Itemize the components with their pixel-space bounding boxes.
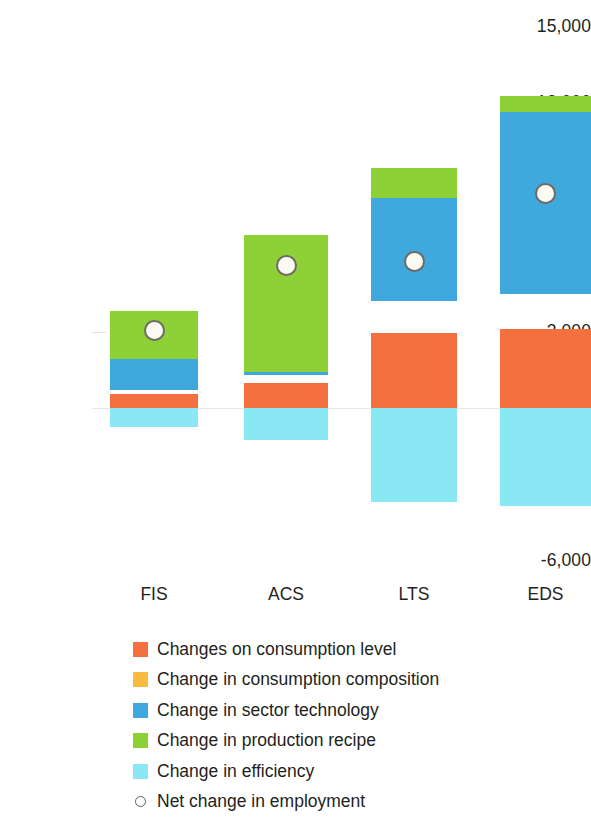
chart-legend: Changes on consumption levelChange in co… bbox=[133, 634, 583, 817]
legend-label: Change in consumption composition bbox=[157, 671, 439, 689]
bar-segment bbox=[500, 294, 591, 330]
bar-segment bbox=[110, 390, 198, 394]
bar-segment bbox=[244, 375, 328, 382]
net-change-marker bbox=[535, 183, 556, 204]
bar-segment bbox=[244, 383, 328, 408]
legend-item[interactable]: Changes on consumption level bbox=[133, 634, 583, 665]
x-axis-label-lts: LTS bbox=[371, 586, 457, 604]
bar-segment bbox=[110, 394, 198, 408]
bar-segment bbox=[244, 372, 328, 375]
legend-label: Changes on consumption level bbox=[157, 641, 396, 659]
legend-item[interactable]: Change in production recipe bbox=[133, 726, 583, 757]
bar-segment bbox=[371, 333, 457, 408]
bar-segment bbox=[371, 408, 457, 502]
bar-segment bbox=[110, 408, 198, 427]
bar-segment bbox=[371, 198, 457, 301]
legend-color-swatch bbox=[133, 703, 148, 718]
y-axis-tick-mark bbox=[92, 332, 106, 333]
open-circle-icon bbox=[133, 794, 148, 809]
legend-item[interactable]: Change in efficiency bbox=[133, 756, 583, 787]
legend-color-swatch bbox=[133, 642, 148, 657]
chart-root: 15,00012,0009,0006,0003,0000-3,000-6,000… bbox=[0, 0, 591, 832]
bar-eds[interactable] bbox=[500, 0, 591, 575]
legend-label: Change in sector technology bbox=[157, 702, 379, 720]
legend-item[interactable]: Change in sector technology bbox=[133, 695, 583, 726]
x-axis-label-acs: ACS bbox=[244, 586, 328, 604]
legend-color-swatch bbox=[133, 672, 148, 687]
bar-segment bbox=[244, 408, 328, 440]
legend-label: Change in production recipe bbox=[157, 732, 376, 750]
legend-color-swatch bbox=[133, 764, 148, 779]
bar-segment bbox=[500, 329, 591, 408]
x-axis-labels: FISACSLTSEDS bbox=[0, 586, 591, 616]
x-axis-label-eds: EDS bbox=[500, 586, 591, 604]
plot-area: 15,00012,0009,0006,0003,0000-3,000-6,000 bbox=[0, 0, 591, 575]
net-change-marker bbox=[404, 251, 425, 272]
bar-segment bbox=[110, 359, 198, 390]
legend-color-swatch bbox=[133, 733, 148, 748]
x-axis-label-fis: FIS bbox=[110, 586, 198, 604]
legend-item[interactable]: Change in consumption composition bbox=[133, 665, 583, 696]
net-change-marker bbox=[144, 320, 165, 341]
bar-fis[interactable] bbox=[110, 0, 198, 575]
legend-label: Change in efficiency bbox=[157, 763, 314, 781]
bar-acs[interactable] bbox=[244, 0, 328, 575]
bar-lts[interactable] bbox=[371, 0, 457, 575]
net-change-marker bbox=[276, 255, 297, 276]
bar-segment bbox=[500, 96, 591, 112]
bar-segment bbox=[371, 168, 457, 198]
legend-item[interactable]: Net change in employment bbox=[133, 787, 583, 818]
bar-segment bbox=[371, 301, 457, 333]
bar-segment bbox=[500, 408, 591, 506]
legend-label: Net change in employment bbox=[157, 793, 365, 811]
